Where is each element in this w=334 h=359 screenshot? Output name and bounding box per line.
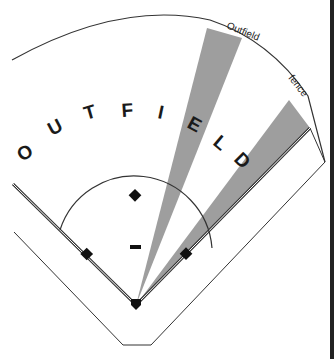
title-letter-o: O	[13, 140, 37, 166]
field-svg: O U T F I E L D Outfield fence	[0, 0, 334, 359]
title-letter-u: U	[44, 115, 66, 140]
home-plate	[131, 299, 141, 310]
right-border	[330, 0, 334, 359]
title-letter-l: L	[209, 131, 232, 155]
pitchers-rubber	[130, 245, 141, 249]
title-letter-i: I	[156, 101, 166, 123]
title-letter-t: T	[81, 100, 98, 123]
shaded-wedge-center	[136, 28, 242, 305]
second-base	[129, 189, 142, 202]
title-letter-f: F	[121, 99, 134, 121]
third-base	[80, 248, 93, 261]
baseball-field-diagram: O U T F I E L D Outfield fence	[0, 0, 334, 359]
